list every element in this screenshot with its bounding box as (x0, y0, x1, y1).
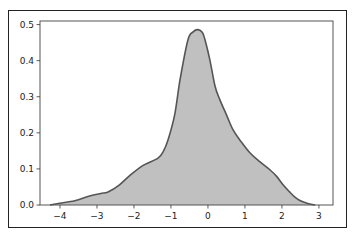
x-tick-label: 3 (316, 211, 322, 221)
x-tick-label: −2 (127, 211, 140, 221)
x-tick-label: 1 (242, 211, 248, 221)
y-tick-label: 0.5 (20, 20, 34, 30)
density-chart: −4−3−2−10123 0.00.10.20.30.40.5 (0, 0, 353, 237)
x-tick-label: −1 (164, 211, 177, 221)
x-tick-label: −3 (90, 211, 103, 221)
plot-area (50, 30, 315, 205)
density-area-fill (50, 30, 315, 205)
x-axis-ticks: −4−3−2−10123 (53, 205, 321, 221)
y-tick-label: 0.2 (20, 128, 34, 138)
x-tick-label: 0 (205, 211, 211, 221)
y-tick-label: 0.3 (20, 92, 34, 102)
y-tick-label: 0.4 (20, 56, 35, 66)
x-tick-label: −4 (53, 211, 67, 221)
y-tick-label: 0.0 (20, 200, 35, 210)
y-axis-ticks: 0.00.10.20.30.40.5 (20, 20, 40, 210)
x-tick-label: 2 (279, 211, 285, 221)
y-tick-label: 0.1 (20, 164, 34, 174)
